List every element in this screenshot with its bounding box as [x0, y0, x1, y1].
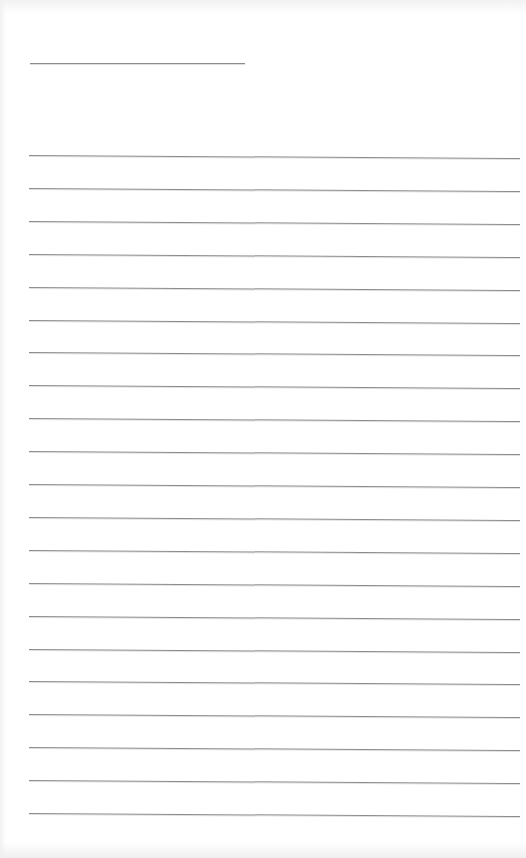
- ruled-line: [29, 649, 520, 653]
- title-line: [30, 63, 245, 64]
- ruled-line: [29, 714, 520, 718]
- ruled-line: [29, 287, 520, 291]
- ruled-line: [29, 221, 520, 225]
- ruled-line: [29, 550, 520, 554]
- ruled-line: [29, 385, 520, 389]
- ruled-line: [29, 352, 520, 356]
- page-edge-shadow: [0, 0, 6, 858]
- ruled-line: [29, 517, 520, 521]
- ruled-line: [29, 451, 520, 455]
- ruled-line: [29, 155, 520, 159]
- ruled-line: [29, 616, 520, 620]
- ruled-line: [29, 813, 520, 817]
- ruled-line: [29, 681, 520, 685]
- ruled-line: [29, 583, 520, 587]
- ruled-line: [29, 254, 520, 258]
- ruled-line: [29, 188, 520, 192]
- ruled-line: [29, 484, 520, 488]
- ruled-line: [29, 418, 520, 422]
- ruled-line: [29, 780, 520, 784]
- lined-paper-page: [0, 0, 526, 858]
- ruled-line: [29, 320, 520, 324]
- ruled-line: [29, 747, 520, 751]
